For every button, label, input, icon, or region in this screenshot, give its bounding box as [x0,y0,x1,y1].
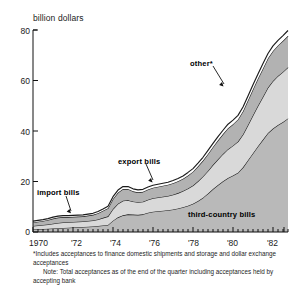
footnote-note: Note: Total acceptances as of the end of… [33,268,291,286]
chart-container: billion dollars 80 60 40 20 0 1970 '72 '… [0,0,295,289]
series-label-import-bills: import bills [37,188,80,197]
series-label-third-country-bills: third-country bills [188,210,255,219]
area-chart-plot [0,0,295,289]
series-label-export-bills: export bills [118,157,160,166]
footnotes: *Includes acceptances to finance domesti… [33,250,291,286]
footnote-asterisk: *Includes acceptances to finance domesti… [33,250,291,268]
stacked-area-series [33,31,288,232]
series-label-other: other* [190,59,213,68]
